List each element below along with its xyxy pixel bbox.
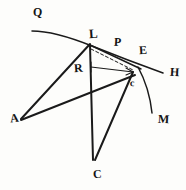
segment-a-to-l [21,44,90,119]
point-label-a: A [9,112,19,125]
point-label-h: H [170,66,180,78]
arrow-segment-r-to-c [91,67,133,72]
point-label-m: M [158,113,170,126]
point-label-p: P [114,36,122,48]
point-label-l: L [89,27,99,41]
point-label-r: R [74,62,83,75]
segment-c-to-c-lower [95,72,133,160]
point-label-e: E [139,44,148,57]
segment-a-to-c [21,75,135,120]
point-label-c: C [93,168,102,181]
geometric-figure: Q L P E H R A c M C [0,0,186,190]
arc-through-c-m [138,67,152,113]
point-label-q: Q [33,6,43,18]
point-label-c-small: c [130,78,135,88]
